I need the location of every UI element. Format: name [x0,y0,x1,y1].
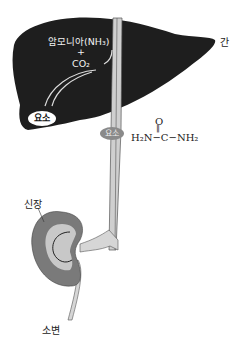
urine-label: 소변 [42,322,60,337]
plus-sign: + [77,46,85,57]
liver-urea-oval: 요소 [28,111,56,126]
vessel-urea-oval: 요소 [100,127,124,140]
co2-label: CO₂ [72,58,90,69]
diagram-canvas [0,0,243,348]
liver-label: 간 [220,34,229,49]
urea-formula: H₂N−C−NH₂ [131,132,198,143]
kidney-label: 신장 [24,196,42,211]
